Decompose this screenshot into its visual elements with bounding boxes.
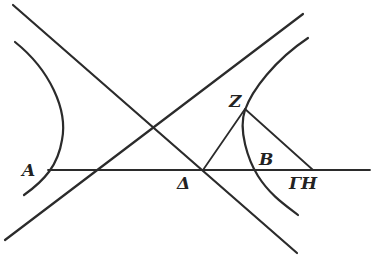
label-gamma-h: ΓH [288,173,318,193]
label-a: A [20,160,35,180]
asymptote-descending [13,5,297,253]
diagram-canvas: A Z B Δ ΓH [0,0,379,268]
line-delta-z [203,109,245,170]
label-z: Z [228,91,242,111]
label-b: B [258,149,273,169]
label-delta: Δ [176,173,190,193]
asymptote-ascending [5,14,303,240]
line-z-h [245,109,313,170]
